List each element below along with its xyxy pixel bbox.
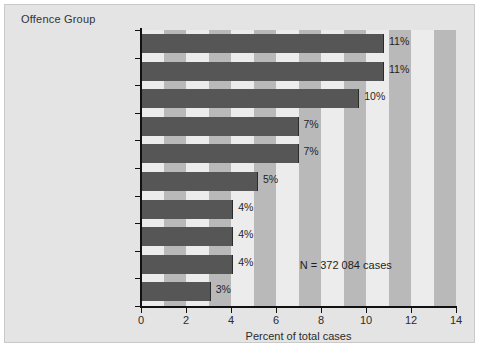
bar [141, 117, 299, 136]
x-axis-tick-label: 8 [318, 314, 324, 326]
x-axis-tick-label: 4 [228, 314, 234, 326]
table-row: 4% [141, 223, 456, 251]
bar [141, 34, 384, 53]
x-axis-tick-label: 14 [450, 314, 462, 326]
x-axis-tick [456, 308, 457, 313]
table-row: 10% [141, 85, 456, 113]
table-row: 4% [141, 196, 456, 224]
y-axis-tick [135, 140, 141, 141]
table-row: 7% [141, 140, 456, 168]
y-axis-tick [135, 196, 141, 197]
x-axis-title: Percent of total cases [141, 330, 456, 342]
y-axis-tick [135, 223, 141, 224]
table-row: 11% [141, 58, 456, 86]
bar [141, 144, 299, 163]
x-axis-tick [141, 308, 142, 313]
y-axis-tick [135, 30, 141, 31]
x-axis-line [140, 306, 457, 308]
bar [141, 62, 384, 81]
bar [141, 227, 233, 246]
bar [141, 89, 359, 108]
x-axis-tick [186, 308, 187, 313]
bar [141, 200, 233, 219]
table-row: 3% [141, 278, 456, 306]
plot-area: 11%11%10%7%7%5%4%4%4%3% [141, 30, 456, 306]
x-axis-tick-label: 12 [405, 314, 417, 326]
x-axis-tick [366, 308, 367, 313]
table-row: 7% [141, 113, 456, 141]
bar-value-label: 11% [389, 35, 409, 47]
bar [141, 282, 211, 301]
bar-series: 11%11%10%7%7%5%4%4%4%3% [141, 30, 456, 306]
y-axis-tick [135, 58, 141, 59]
bar-value-label: 4% [238, 228, 253, 240]
bar-value-label: 7% [304, 118, 319, 130]
y-axis-category-labels: Impaired drivingCommon assaultTheftFail … [0, 0, 134, 347]
bar-value-label: 5% [263, 173, 278, 185]
y-axis-tick [135, 85, 141, 86]
x-axis-tick [321, 308, 322, 313]
x-axis-tick [411, 308, 412, 313]
y-axis-tick [135, 251, 141, 252]
bar-value-label: 11% [389, 63, 409, 75]
table-row: 5% [141, 168, 456, 196]
bar-value-label: 3% [216, 283, 231, 295]
bar-value-label: 4% [238, 201, 253, 213]
bar [141, 255, 233, 274]
sample-size-annotation: N = 372 084 cases [300, 259, 392, 271]
bar-value-label: 7% [304, 145, 319, 157]
y-axis-tick [135, 278, 141, 279]
chart-screenshot: Offence Group 11%11%10%7%7%5%4%4%4%3% Im… [0, 0, 479, 347]
table-row: 11% [141, 30, 456, 58]
y-axis-tick [135, 168, 141, 169]
x-axis-tick-label: 2 [183, 314, 189, 326]
x-axis-tick [231, 308, 232, 313]
y-axis-tick [135, 306, 141, 307]
bar-value-label: 10% [364, 90, 385, 102]
x-axis-tick-label: 6 [273, 314, 279, 326]
bar [141, 172, 258, 191]
table-row: 4% [141, 251, 456, 279]
x-axis-tick-label: 10 [360, 314, 372, 326]
x-axis-tick-label: 0 [138, 314, 144, 326]
bar-value-label: 4% [238, 256, 253, 268]
x-axis-tick [276, 308, 277, 313]
y-axis-tick [135, 113, 141, 114]
